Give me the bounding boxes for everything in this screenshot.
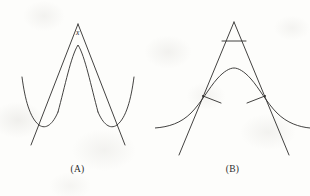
panel-b-caption: (B) (155, 164, 310, 174)
figure-panel-b: x (B) (155, 0, 310, 196)
tangency-point-right-b (264, 95, 266, 97)
panel-a-caption: (A) (0, 164, 155, 174)
tangent-line-right-b (234, 22, 289, 155)
tangent-line-left-a (31, 24, 78, 145)
tangent-line-right-a (78, 24, 125, 145)
curve-right-segment-a (98, 77, 134, 127)
figure-page: x (A) x (B) (0, 0, 310, 196)
curve-left-segment-a (22, 77, 58, 127)
tangent-line-left-b (179, 22, 234, 155)
tangency-point-left-b (202, 95, 204, 97)
angle-label-a: x (76, 28, 79, 37)
figure-panel-a: x (A) (0, 0, 155, 196)
tangency-tick-left-b (203, 96, 221, 103)
tangency-tick-right-b (247, 96, 265, 103)
curve-peak-segment-a (58, 45, 98, 112)
bell-curve-b (155, 68, 310, 128)
